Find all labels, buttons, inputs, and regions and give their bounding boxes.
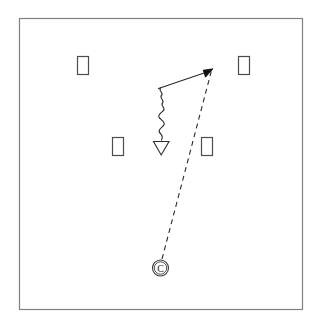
ball-handler-marker[interactable]: C: [153, 260, 169, 276]
player-marker-defender-top-right[interactable]: [239, 57, 250, 75]
player-marker-defender-top-left[interactable]: [78, 57, 89, 75]
player-marker-defender-mid-left[interactable]: [113, 138, 124, 156]
play-diagram-canvas: C: [0, 0, 322, 331]
play-diagram: C: [0, 0, 322, 331]
player-marker-defender-mid-right[interactable]: [202, 138, 213, 156]
ball-handler-label: C: [157, 263, 164, 274]
